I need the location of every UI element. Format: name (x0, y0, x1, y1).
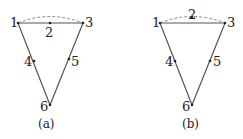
node-label-2: 2 (45, 25, 53, 40)
node-3 (82, 22, 85, 25)
node-5 (68, 58, 71, 61)
node-2 (49, 22, 52, 25)
caption-b: (b) (182, 117, 199, 131)
node-6 (49, 104, 52, 107)
caption-a: (a) (38, 117, 55, 131)
diagram-a: 1 2 3 4 5 6 (a) (10, 15, 93, 131)
diagram-canvas: 1 2 3 4 5 6 (a) 1 2 3 4 5 6 (b) (0, 0, 243, 139)
node-3 (224, 22, 227, 25)
node-4 (174, 60, 177, 63)
node-label-5: 5 (213, 54, 221, 69)
node-label-2: 2 (188, 7, 196, 22)
node-5 (209, 60, 212, 63)
node-label-4: 4 (24, 54, 32, 69)
node-4 (33, 60, 36, 63)
node-label-1: 1 (10, 15, 18, 30)
node-label-6: 6 (182, 99, 190, 114)
diagram-b: 1 2 3 4 5 6 (b) (152, 7, 235, 131)
node-label-3: 3 (85, 15, 93, 30)
node-6 (191, 104, 194, 107)
node-label-4: 4 (165, 54, 173, 69)
node-label-3: 3 (227, 15, 235, 30)
node-label-1: 1 (152, 15, 160, 30)
node-label-6: 6 (40, 99, 48, 114)
node-label-5: 5 (71, 54, 79, 69)
